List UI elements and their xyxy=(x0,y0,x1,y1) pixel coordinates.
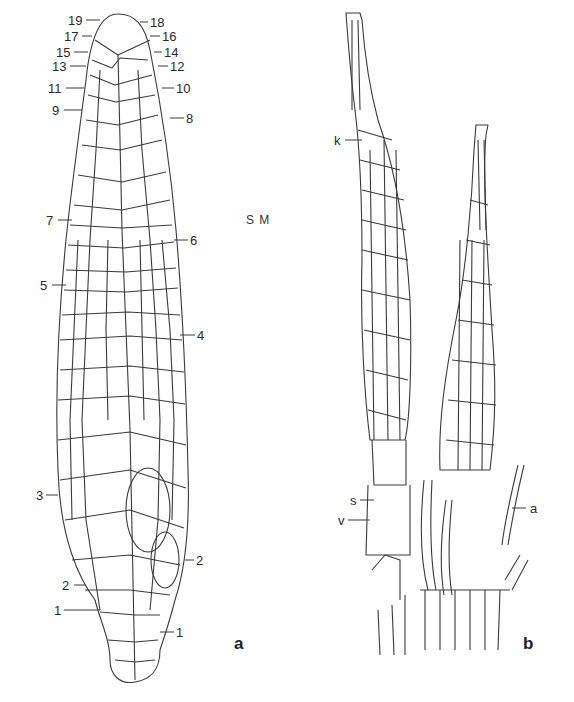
segment-label-4: 4 xyxy=(197,329,204,342)
segment-label-17: 17 xyxy=(64,30,78,43)
segment-label-12: 12 xyxy=(170,60,184,73)
segment-label-5: 5 xyxy=(40,279,47,292)
figure-drawing xyxy=(0,0,574,702)
label-a-archegonia: a xyxy=(530,502,537,515)
segment-label-10: 10 xyxy=(176,82,190,95)
segment-label-8: 8 xyxy=(186,112,193,125)
label-s-seta: s xyxy=(350,494,357,507)
segment-label-18: 18 xyxy=(150,16,164,29)
panel-label-b: b xyxy=(523,634,533,654)
segment-label-1-left: 1 xyxy=(54,604,61,617)
label-v-vaginula: v xyxy=(338,514,345,527)
sm-marker: S M xyxy=(246,213,270,227)
segment-label-6: 6 xyxy=(190,234,197,247)
segment-label-19: 19 xyxy=(68,14,82,27)
segment-label-3: 3 xyxy=(36,489,43,502)
segment-label-13: 13 xyxy=(52,60,66,73)
segment-label-11: 11 xyxy=(48,82,62,95)
label-k-calyptra: k xyxy=(334,134,341,147)
panel-b-right-sporophyte xyxy=(440,125,495,470)
segment-label-16: 16 xyxy=(162,30,176,43)
segment-label-14: 14 xyxy=(164,46,178,59)
segment-label-7: 7 xyxy=(46,214,53,227)
segment-label-9: 9 xyxy=(52,104,59,117)
panel-a-outline xyxy=(57,14,189,683)
segment-label-2-left: 2 xyxy=(62,579,69,592)
segment-label-1-right: 1 xyxy=(176,626,183,639)
panel-label-a: a xyxy=(234,634,243,654)
panel-b-left-sporophyte xyxy=(346,13,411,440)
segment-label-15: 15 xyxy=(56,46,70,59)
segment-label-2-right: 2 xyxy=(196,554,203,567)
